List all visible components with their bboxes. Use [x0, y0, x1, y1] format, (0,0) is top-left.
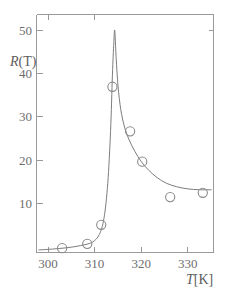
data-point — [97, 220, 106, 229]
y-axis-title-arg: (T) — [19, 54, 37, 70]
x-tick-labels: 300 310 320 330 — [38, 256, 197, 271]
plot-frame — [37, 15, 214, 253]
x-tick-label-300: 300 — [38, 256, 58, 271]
fit-curve — [39, 30, 211, 250]
y-tick-label-20: 20 — [19, 153, 32, 168]
data-markers — [58, 82, 208, 253]
y-axis-title: R(T) — [9, 54, 37, 70]
x-tick-label-330: 330 — [178, 256, 198, 271]
data-point — [126, 127, 135, 136]
y-tick-label-50: 50 — [19, 23, 32, 38]
x-axis-title-unit: [K] — [194, 272, 213, 287]
x-tick-label-310: 310 — [85, 256, 105, 271]
y-tick-labels: 50 40 30 20 10 — [19, 23, 32, 211]
chart-canvas: 50 40 30 20 10 300 310 320 330 R(T) T[K] — [0, 0, 232, 296]
x-axis-title: T[K] — [186, 272, 213, 287]
y-axis-title-symbol: R — [9, 54, 19, 69]
x-tick-label-320: 320 — [131, 256, 151, 271]
data-point — [166, 193, 175, 202]
y-axis-ticks — [37, 30, 214, 203]
chart-figure: 50 40 30 20 10 300 310 320 330 R(T) T[K] — [0, 0, 232, 296]
y-tick-label-10: 10 — [19, 196, 32, 211]
data-point — [138, 157, 147, 166]
y-tick-label-30: 30 — [19, 109, 32, 124]
x-axis-ticks — [48, 15, 188, 253]
